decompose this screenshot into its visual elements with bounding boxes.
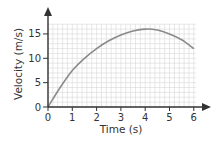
y-tick-label: 5: [35, 77, 41, 88]
x-tick-label: 1: [69, 112, 75, 123]
x-axis-title: Time (s): [99, 123, 143, 135]
x-tick-label: 5: [166, 112, 172, 123]
y-axis-arrow-icon: [44, 7, 52, 16]
y-tick-label: 0: [35, 102, 41, 113]
grid: [48, 24, 196, 107]
ticks: 0123456051015: [28, 28, 197, 123]
y-tick-label: 10: [28, 53, 41, 64]
x-axis-arrow-icon: [202, 103, 211, 111]
axes: [44, 7, 211, 111]
x-tick-label: 2: [93, 112, 99, 123]
velocity-time-chart: 0123456051015 Time (s) Velocity (m/s): [0, 0, 222, 144]
x-tick-label: 3: [118, 112, 124, 123]
y-tick-label: 15: [28, 28, 41, 39]
x-tick-label: 4: [142, 112, 148, 123]
x-tick-label: 6: [191, 112, 197, 123]
x-tick-label: 0: [45, 112, 51, 123]
y-axis-title: Velocity (m/s): [12, 28, 24, 100]
